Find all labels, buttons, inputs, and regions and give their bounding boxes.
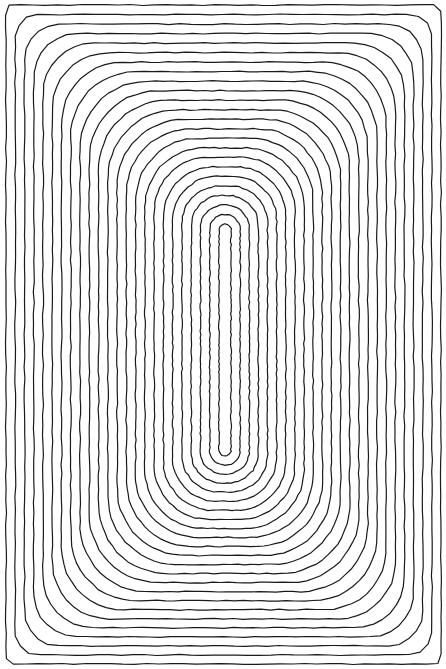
concentric-loop: [43, 43, 406, 629]
concentric-loop: [89, 90, 360, 583]
concentric-loop: [219, 224, 232, 456]
concentric-lines-artwork: [0, 0, 446, 669]
concentric-loop: [172, 176, 277, 502]
concentric-loop: [135, 138, 314, 538]
concentric-loop: [24, 24, 423, 647]
artwork-canvas: [0, 0, 446, 669]
concentric-loop: [200, 205, 250, 475]
concentric-loop: [209, 214, 241, 465]
concentric-loop: [182, 186, 269, 493]
concentric-loop: [107, 109, 341, 565]
concentric-loop: [52, 52, 396, 619]
concentric-loop: [126, 128, 323, 547]
